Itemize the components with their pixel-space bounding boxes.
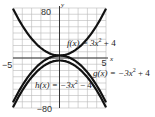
y-min-tick-label: −80 xyxy=(37,104,52,114)
axes xyxy=(13,6,108,108)
x-max-tick-label: 5 xyxy=(101,58,106,68)
parabola-chart: 80 y −5 5 x −80 f(x) = 3x2 + 4 g(x) = −3… xyxy=(0,0,155,117)
x-axis-letter: x xyxy=(109,55,114,63)
x-min-tick-label: −5 xyxy=(2,60,12,70)
y-max-tick-label: 80 xyxy=(41,7,51,17)
h-label: h(x) = −3x2 − 4 xyxy=(35,79,92,90)
g-label: g(x) = −3x2 + 4 xyxy=(93,67,150,78)
f-label: f(x) = 3x2 + 4 xyxy=(67,37,116,48)
